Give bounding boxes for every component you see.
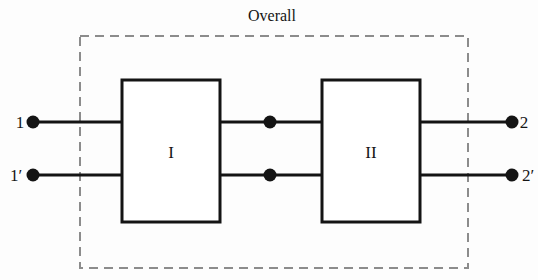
diagram-canvas: I II 1 1′ 2 2′ Overall: [0, 0, 538, 280]
port-label-1-prime: 1′: [10, 166, 22, 185]
port-label-2: 2: [520, 113, 529, 132]
port-label-1: 1: [16, 113, 25, 132]
terminal-dot-1-prime: [27, 169, 40, 182]
diagram-title: Overall: [248, 7, 297, 24]
wire-group: [33, 122, 512, 175]
terminal-dot-1: [27, 116, 40, 129]
terminal-dot-2: [506, 116, 519, 129]
junction-dot-bottom: [264, 169, 277, 182]
block-one-label: I: [168, 143, 174, 162]
terminal-dot-2-prime: [506, 169, 519, 182]
two-port-network-diagram: I II 1 1′ 2 2′ Overall: [0, 0, 538, 280]
port-label-2-prime: 2′: [522, 166, 534, 185]
block-two-label: II: [365, 143, 377, 162]
junction-dot-top: [264, 116, 277, 129]
